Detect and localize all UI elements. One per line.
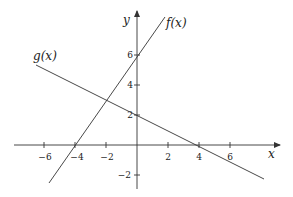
y-tick-labels: −2 2 4 6 <box>118 50 134 180</box>
y-tick-label: −2 <box>118 170 131 180</box>
x-tick-label: 2 <box>165 152 171 162</box>
y-tick-label: 6 <box>127 50 133 60</box>
x-tick-label: 4 <box>196 152 202 162</box>
x-tick-label: 6 <box>227 152 233 162</box>
x-tick-label: −2 <box>100 152 113 162</box>
f-label: f(x) <box>165 16 187 30</box>
x-axis-label: x <box>268 147 275 161</box>
g-label: g(x) <box>33 49 57 63</box>
y-tick-label: 4 <box>127 80 133 90</box>
y-axis-label: y <box>122 13 130 27</box>
x-tick-label: −6 <box>38 152 52 162</box>
function-plot: −6 −4 −2 2 4 6 −2 2 4 6 x y f(x) g(x) <box>0 0 293 197</box>
x-tick-label: −4 <box>70 152 84 162</box>
